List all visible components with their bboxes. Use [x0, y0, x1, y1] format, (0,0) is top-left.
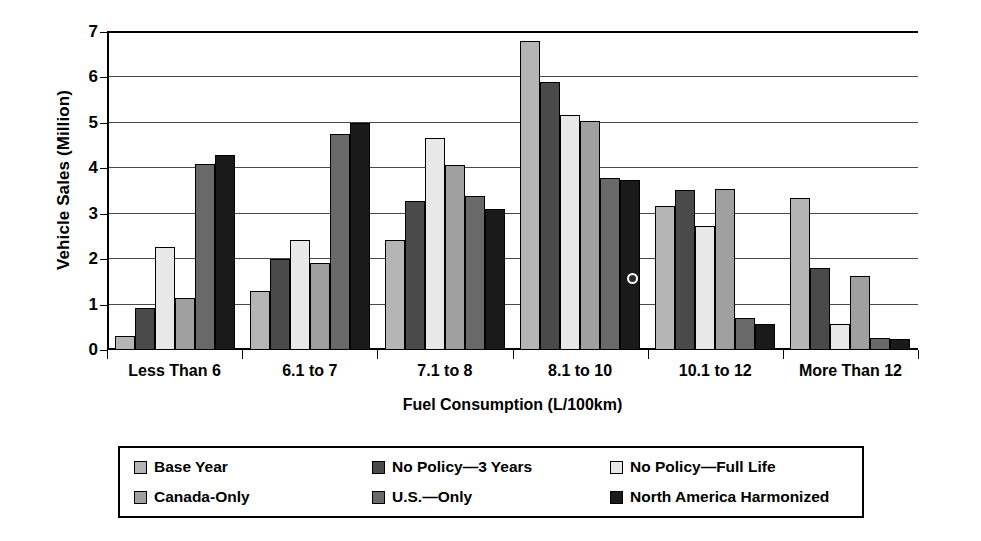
legend-label: U.S.—Only	[392, 488, 472, 506]
bar	[600, 178, 620, 350]
bar	[465, 196, 485, 350]
scan-artifact-dot-icon	[627, 273, 638, 284]
bar	[310, 263, 330, 350]
legend-label: Canada-Only	[154, 488, 250, 506]
bar	[655, 206, 675, 350]
bar	[175, 298, 195, 350]
bar	[425, 138, 445, 350]
bar	[580, 121, 600, 350]
bar-group	[377, 32, 512, 350]
bar-group	[648, 32, 783, 350]
bar	[270, 259, 290, 350]
x-tick-label: More Than 12	[783, 362, 918, 380]
y-tick-label: 6	[89, 67, 98, 87]
legend-item[interactable]: No Policy—3 Years	[372, 452, 610, 482]
y-tick-mark	[100, 168, 107, 169]
y-tick-label: 5	[89, 113, 98, 133]
x-tick-label: 7.1 to 8	[377, 362, 512, 380]
legend-swatch-icon	[372, 461, 385, 474]
plot-area: 01234567	[107, 32, 918, 350]
x-tick-mark	[783, 350, 784, 359]
x-tick-mark	[377, 350, 378, 359]
x-tick-label: 10.1 to 12	[648, 362, 783, 380]
bar	[520, 41, 540, 350]
bar	[195, 164, 215, 350]
bar	[250, 291, 270, 350]
bar	[155, 247, 175, 350]
legend-label: No Policy—Full Life	[630, 458, 776, 476]
x-axis-tick-labels: Less Than 66.1 to 77.1 to 88.1 to 1010.1…	[107, 362, 918, 380]
bar	[350, 123, 370, 350]
chart-legend: Base YearNo Policy—3 YearsNo Policy—Full…	[118, 446, 864, 518]
x-tick-mark	[513, 350, 514, 359]
bar	[215, 155, 235, 350]
bar-group	[783, 32, 918, 350]
x-axis-title: Fuel Consumption (L/100km)	[107, 396, 918, 414]
bar	[540, 82, 560, 350]
legend-label: No Policy—3 Years	[392, 458, 532, 476]
bar	[790, 198, 810, 350]
bar	[675, 190, 695, 350]
bar-group	[242, 32, 377, 350]
legend-item[interactable]: U.S.—Only	[372, 482, 610, 512]
y-tick-label: 7	[89, 22, 98, 42]
bar-groups	[107, 32, 918, 350]
bar	[850, 276, 870, 350]
y-tick-label: 4	[89, 158, 98, 178]
x-axis-ticks	[107, 350, 918, 360]
bar	[385, 240, 405, 350]
y-tick-label: 2	[89, 249, 98, 269]
bar-group	[107, 32, 242, 350]
legend-swatch-icon	[610, 491, 623, 504]
legend-item[interactable]: North America Harmonized	[610, 482, 848, 512]
x-tick-mark	[918, 350, 919, 359]
bar	[755, 324, 775, 350]
y-tick-mark	[100, 214, 107, 215]
x-tick-mark	[648, 350, 649, 359]
bar	[135, 308, 155, 350]
bar	[830, 324, 850, 350]
legend-swatch-icon	[134, 461, 147, 474]
bar	[695, 226, 715, 350]
bar	[810, 268, 830, 350]
legend-swatch-icon	[372, 491, 385, 504]
y-tick-mark	[100, 123, 107, 124]
y-tick-mark	[100, 305, 107, 306]
bar	[620, 180, 640, 350]
legend-swatch-icon	[610, 461, 623, 474]
x-tick-label: 6.1 to 7	[242, 362, 377, 380]
x-tick-mark	[242, 350, 243, 359]
y-tick-mark	[100, 350, 107, 351]
x-tick-mark	[107, 350, 108, 359]
bar	[870, 338, 890, 350]
legend-label: North America Harmonized	[630, 488, 829, 506]
chart-figure: Vehicle Sales (Million) 01234567 Less Th…	[0, 0, 981, 541]
x-tick-label: Less Than 6	[107, 362, 242, 380]
y-tick-mark	[100, 77, 107, 78]
legend-item[interactable]: No Policy—Full Life	[610, 452, 848, 482]
y-tick-mark	[100, 259, 107, 260]
y-tick-mark	[100, 32, 107, 33]
bar	[485, 209, 505, 350]
legend-item[interactable]: Base Year	[134, 452, 372, 482]
y-tick-label: 1	[89, 295, 98, 315]
bar	[405, 201, 425, 350]
y-tick-label: 3	[89, 204, 98, 224]
bar	[715, 189, 735, 350]
bar	[290, 240, 310, 350]
bar	[560, 115, 580, 350]
bar	[330, 134, 350, 350]
bar	[115, 336, 135, 350]
y-axis-title: Vehicle Sales (Million)	[54, 20, 74, 340]
legend-item[interactable]: Canada-Only	[134, 482, 372, 512]
bar	[890, 339, 910, 350]
legend-swatch-icon	[134, 491, 147, 504]
legend-label: Base Year	[154, 458, 228, 476]
bar	[735, 318, 755, 350]
y-tick-label: 0	[89, 340, 98, 360]
bar-group	[513, 32, 648, 350]
x-tick-label: 8.1 to 10	[513, 362, 648, 380]
bar	[445, 165, 465, 350]
